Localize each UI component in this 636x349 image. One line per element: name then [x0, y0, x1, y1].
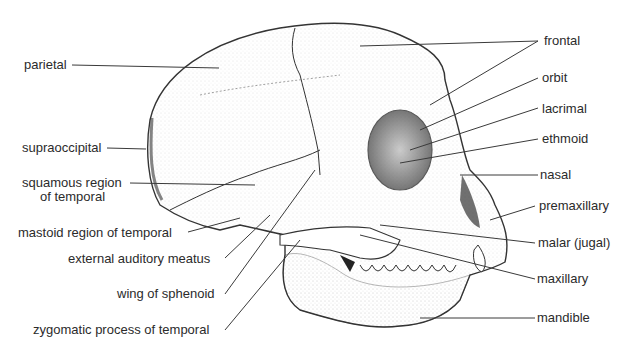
label-frontal: frontal [544, 34, 580, 48]
label-external-auditory-meatus: external auditory meatus [68, 252, 210, 266]
label-ethmoid: ethmoid [542, 132, 588, 146]
label-malar-jugal: malar (jugal) [538, 236, 610, 250]
label-premaxillary: premaxillary [539, 199, 609, 213]
label-wing-of-sphenoid: wing of sphenoid [117, 287, 215, 301]
label-parietal: parietal [24, 58, 67, 72]
label-orbit: orbit [542, 71, 567, 85]
label-squamous: squamous region [22, 176, 122, 190]
label-mastoid: mastoid region of temporal [18, 226, 172, 240]
orbit-cavity [368, 110, 432, 190]
label-zygomatic-process: zygomatic process of temporal [33, 323, 209, 337]
label-maxillary: maxillary [537, 272, 588, 286]
label-mandible: mandible [537, 311, 590, 325]
label-squamous-line2: of temporal [40, 190, 105, 204]
label-supraoccipital: supraoccipital [22, 141, 102, 155]
label-nasal: nasal [540, 168, 571, 182]
label-lacrimal: lacrimal [542, 102, 587, 116]
skull-diagram: parietal supraoccipital squamous region … [0, 0, 636, 349]
